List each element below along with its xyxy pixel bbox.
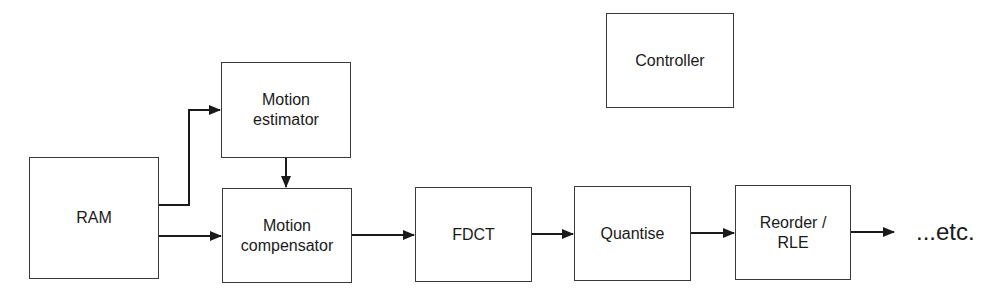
motion-estimator-block: Motion estimator bbox=[221, 62, 351, 158]
motion-estimator-label-2: estimator bbox=[253, 110, 319, 130]
quantise-block: Quantise bbox=[574, 186, 691, 281]
continuation-label: ...etc. bbox=[916, 218, 975, 246]
motion-compensator-label-1: Motion bbox=[241, 216, 334, 236]
arrow-ram-to-estimator bbox=[158, 110, 220, 205]
motion-compensator-block: Motion compensator bbox=[222, 188, 352, 283]
controller-label: Controller bbox=[635, 51, 704, 71]
ram-block: RAM bbox=[29, 157, 159, 279]
reorder-rle-block: Reorder / RLE bbox=[735, 185, 851, 280]
motion-compensator-label-2: compensator bbox=[241, 236, 334, 256]
quantise-label: Quantise bbox=[600, 224, 664, 244]
reorder-rle-label-2: RLE bbox=[760, 233, 827, 253]
fdct-label: FDCT bbox=[452, 225, 495, 245]
reorder-rle-label-1: Reorder / bbox=[760, 213, 827, 233]
fdct-block: FDCT bbox=[415, 187, 532, 282]
controller-block: Controller bbox=[606, 13, 734, 108]
motion-estimator-label-1: Motion bbox=[253, 90, 319, 110]
ram-label: RAM bbox=[76, 208, 112, 228]
